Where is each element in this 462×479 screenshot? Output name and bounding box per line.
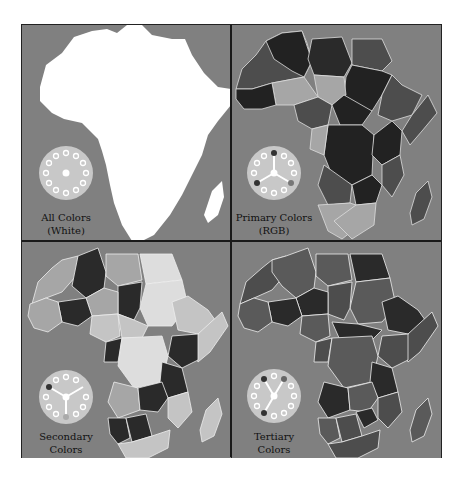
panel-tertiary: Tertiary Colors xyxy=(232,242,441,458)
panel-primary: Primary Colors (RGB) xyxy=(232,25,441,241)
color-wheel-secondary xyxy=(39,370,93,424)
africa-map-primary xyxy=(232,25,441,241)
panel-secondary: Secondary Colors xyxy=(22,242,231,458)
color-wheel-primary xyxy=(247,146,301,200)
label-line1: Secondary xyxy=(22,430,111,443)
africa-map-white xyxy=(22,25,231,241)
label-line1: Primary Colors xyxy=(232,211,319,224)
label-line2: Colors xyxy=(232,443,319,456)
africa-map-tertiary xyxy=(232,242,441,458)
panel-label: Secondary Colors xyxy=(22,430,111,456)
label-line2: (White) xyxy=(22,224,111,237)
label-line1: All Colors xyxy=(22,211,111,224)
africa-map-secondary xyxy=(22,242,231,458)
label-line1: Tertiary xyxy=(232,430,319,443)
horizontal-divider xyxy=(22,240,441,242)
label-line2: (RGB) xyxy=(232,224,319,237)
label-line2: Colors xyxy=(22,443,111,456)
color-wheel-tertiary xyxy=(247,369,301,423)
panel-label: All Colors (White) xyxy=(22,211,111,237)
panel-all-colors: All Colors (White) xyxy=(22,25,231,241)
panel-label: Tertiary Colors xyxy=(232,430,319,456)
figure-frame: All Colors (White) xyxy=(21,24,442,458)
panel-label: Primary Colors (RGB) xyxy=(232,211,319,237)
color-wheel-all xyxy=(39,146,93,200)
